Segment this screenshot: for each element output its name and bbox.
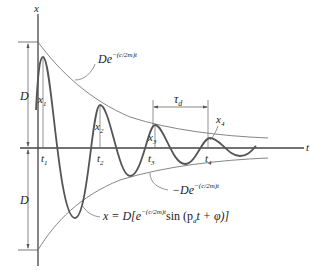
arrow-up-icon <box>27 149 30 154</box>
damped-oscillation-curve <box>36 57 256 218</box>
label-x2: x2 <box>94 120 104 135</box>
arrow-down-icon <box>27 142 30 147</box>
damped-vibration-diagram: x t D D τd x1 x2 x3 x4 t1 t2 t3 t4 De−(c… <box>0 0 310 277</box>
arrow-right-icon <box>203 106 208 109</box>
label-t1: t1 <box>41 152 48 167</box>
equation-label: x = D[e−(c/2m)tsin (pdt + φ)] <box>102 208 230 225</box>
label-t3: t3 <box>148 152 155 167</box>
label-t2: t2 <box>97 152 104 167</box>
leader-upper-envelope <box>75 64 95 80</box>
diagram-canvas: x t D D τd x1 x2 x3 x4 t1 t2 t3 t4 De−(c… <box>0 0 310 277</box>
lower-envelope-curve <box>38 158 268 250</box>
label-d-lower: D <box>19 193 29 207</box>
leader-lower-envelope <box>150 173 168 190</box>
label-x3: x3 <box>147 131 157 146</box>
label-t4: t4 <box>205 152 212 167</box>
arrow-down-icon <box>27 244 30 249</box>
axis-label-t: t <box>306 141 310 153</box>
arrow-left-icon <box>153 106 158 109</box>
arrow-up-icon <box>27 43 30 48</box>
label-upper-envelope: De−(c/2m)t <box>97 51 138 66</box>
label-x4: x4 <box>215 113 225 128</box>
label-d-upper: D <box>19 89 29 103</box>
axis-label-x: x <box>33 2 39 14</box>
leader-equation <box>82 205 100 217</box>
label-lower-envelope: −De−(c/2m)t <box>172 182 220 197</box>
label-tau: τd <box>174 92 183 108</box>
